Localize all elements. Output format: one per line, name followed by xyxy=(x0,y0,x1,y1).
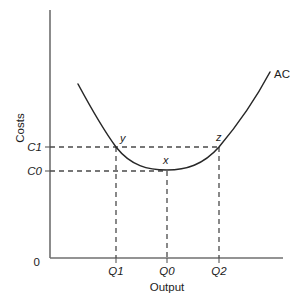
origin-label: 0 xyxy=(34,256,40,268)
point-label-z: z xyxy=(215,131,222,143)
y-tick-label-c0: C0 xyxy=(27,165,42,177)
chart-canvas: AC y x z 0 C1 C0 Q1 Q0 Q2 Output Costs xyxy=(0,0,300,303)
x-tick-label-q2: Q2 xyxy=(211,265,227,277)
x-tick-label-q1: Q1 xyxy=(108,265,123,277)
point-label-x: x xyxy=(162,154,169,166)
curve-label-ac: AC xyxy=(274,68,290,80)
y-axis-title: Costs xyxy=(14,113,26,143)
x-axis-title: Output xyxy=(150,281,185,293)
average-cost-curve-figure: AC y x z 0 C1 C0 Q1 Q0 Q2 Output Costs xyxy=(0,0,300,303)
x-tick-label-q0: Q0 xyxy=(159,265,175,277)
point-label-y: y xyxy=(119,132,127,144)
average-cost-curve xyxy=(78,72,270,170)
y-tick-label-c1: C1 xyxy=(27,141,42,153)
